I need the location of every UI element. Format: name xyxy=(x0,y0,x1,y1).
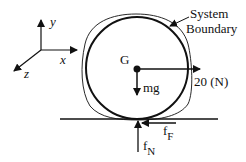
coordinate-axes: y x z xyxy=(14,14,77,81)
center-label: G xyxy=(120,52,129,67)
normal-force-label: fN xyxy=(143,138,155,157)
boundary-label: Boundary xyxy=(186,21,238,36)
system-label: System xyxy=(190,6,228,21)
free-body-diagram: y x z System Boundary G 20 (N) mg fF fN xyxy=(0,0,246,162)
y-axis-label: y xyxy=(48,14,56,29)
z-axis-label: z xyxy=(23,66,29,81)
x-axis-label: x xyxy=(59,52,66,67)
applied-force-label: 20 (N) xyxy=(194,74,228,89)
friction-label: fF xyxy=(163,123,173,142)
weight-label: mg xyxy=(143,80,160,95)
